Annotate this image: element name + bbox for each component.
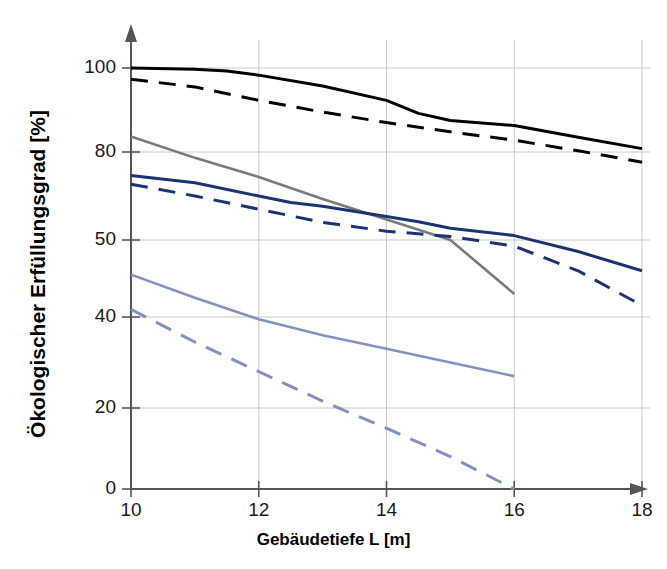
x-tick-label: 14 <box>357 499 417 521</box>
series-line-series-6-lightblue-solid <box>131 275 514 377</box>
y-axis-label: Ökologischer Erfüllungsgrad [%] <box>26 44 50 504</box>
x-tick-label: 10 <box>101 499 161 521</box>
y-tick-label: 100 <box>46 56 116 78</box>
x-tick-label: 18 <box>612 499 667 521</box>
x-tick-label: 16 <box>484 499 544 521</box>
chart-container: Ökologischer Erfüllungsgrad [%] Gebäudet… <box>0 0 667 569</box>
series-line-series-3-gray-solid <box>131 136 514 293</box>
y-tick-label: 50 <box>46 228 116 250</box>
x-tick-label: 12 <box>229 499 289 521</box>
y-tick-label: 80 <box>46 140 116 162</box>
y-tick-label: 20 <box>46 396 116 418</box>
y-tick-label: 40 <box>46 305 116 327</box>
y-tick-label: 0 <box>46 477 116 499</box>
x-axis-label: Gebäudetiefe L [m] <box>0 530 667 550</box>
